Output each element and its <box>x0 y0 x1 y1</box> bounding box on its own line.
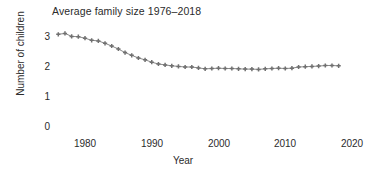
data-point-marker <box>337 64 341 68</box>
data-point-marker <box>250 67 254 71</box>
data-point-marker <box>223 66 227 70</box>
data-point-marker <box>150 60 154 64</box>
data-point-marker <box>256 67 260 71</box>
data-point-marker <box>330 63 334 67</box>
data-point-marker <box>136 56 140 60</box>
plot-area <box>0 0 366 179</box>
data-point-marker <box>163 63 167 67</box>
data-point-marker <box>236 67 240 71</box>
data-point-marker <box>303 65 307 69</box>
data-point-marker <box>317 64 321 68</box>
data-point-marker <box>270 66 274 70</box>
data-point-marker <box>70 34 74 38</box>
data-point-marker <box>276 66 280 70</box>
data-point-marker <box>110 44 114 48</box>
data-point-marker <box>196 66 200 70</box>
data-point-marker <box>310 64 314 68</box>
data-point-marker <box>116 47 120 51</box>
data-point-marker <box>76 35 80 39</box>
data-point-marker <box>230 66 234 70</box>
data-point-marker <box>156 62 160 66</box>
data-point-marker <box>263 67 267 71</box>
data-point-marker <box>130 53 134 57</box>
data-point-marker <box>183 65 187 69</box>
data-point-marker <box>243 67 247 71</box>
data-point-marker <box>203 67 207 71</box>
chart-container: Average family size 1976–2018 Number of … <box>0 0 366 179</box>
data-point-marker <box>56 32 60 36</box>
data-point-marker <box>290 66 294 70</box>
data-point-marker <box>323 63 327 67</box>
data-point-marker <box>283 66 287 70</box>
data-point-marker <box>103 41 107 45</box>
series-markers <box>56 31 341 71</box>
series-line <box>58 33 338 69</box>
data-point-marker <box>90 38 94 42</box>
data-point-marker <box>123 51 127 55</box>
data-point-marker <box>96 39 100 43</box>
data-point-marker <box>63 31 67 35</box>
data-point-marker <box>216 66 220 70</box>
data-point-marker <box>176 64 180 68</box>
data-point-marker <box>83 36 87 40</box>
data-point-marker <box>210 66 214 70</box>
data-point-marker <box>297 65 301 69</box>
data-point-marker <box>143 58 147 62</box>
data-point-marker <box>170 64 174 68</box>
data-point-marker <box>190 65 194 69</box>
